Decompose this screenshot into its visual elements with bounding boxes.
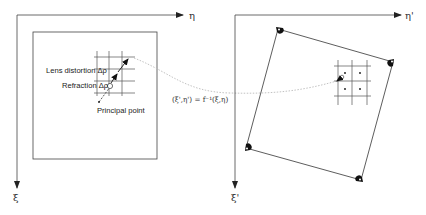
principal-point-dot (98, 101, 100, 103)
refraction-arrow (111, 74, 117, 83)
transform-equation: (ξ',η') = f⁻¹(ξ,η) (172, 95, 228, 104)
refraction-label: Refraction Δρ (62, 81, 109, 90)
left-panel: η ξ Lens distortion Δρ Refraction Δρ Pri… (13, 10, 195, 203)
right-axes (235, 15, 401, 188)
fiducial-top-right (387, 59, 394, 67)
left-axes (17, 15, 183, 188)
image-point-circle (107, 83, 112, 88)
principal-point-label: Principal point (97, 106, 146, 115)
fiducial-bottom-left (245, 143, 252, 151)
lens-distortion-arrow (118, 59, 128, 72)
axis-xi-prime-label: ξ' (231, 192, 239, 203)
axis-xi-label: ξ (13, 192, 19, 203)
right-grid (334, 60, 371, 105)
right-panel: η' ξ' (231, 10, 414, 203)
axis-eta-prime-label: η' (405, 10, 414, 21)
lens-distortion-label: Lens distortion Δρ (46, 66, 108, 75)
transformed-image-frame (246, 29, 393, 180)
image-frame (33, 32, 157, 159)
diagram-canvas: η ξ Lens distortion Δρ Refraction Δρ Pri… (0, 0, 426, 215)
axis-eta-label: η (189, 10, 195, 21)
mapping-curve (134, 58, 340, 93)
fiducial-markers (245, 27, 394, 182)
